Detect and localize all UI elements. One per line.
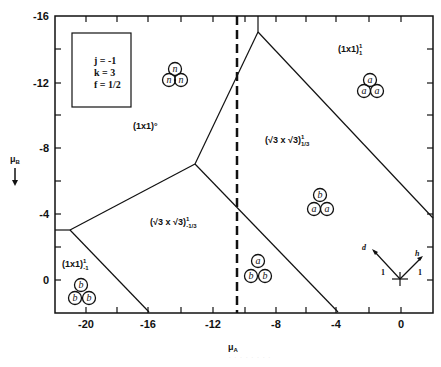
atom-label: a <box>362 85 367 96</box>
atom-label: b <box>87 292 92 303</box>
x-axis-title: μA <box>228 342 239 353</box>
atom-label: a <box>375 85 380 96</box>
y-axis-ticks-left <box>55 49 61 280</box>
region-label-sqrt3-1-third: (√3 x √3)11/3 <box>265 134 310 147</box>
y-tick-label: -8 <box>39 142 49 154</box>
param-f: f = 1/2 <box>94 79 121 90</box>
atom-label: b <box>263 270 268 281</box>
unit-label-right: 1 <box>418 268 422 277</box>
x-axis-ticks-bottom <box>86 307 401 313</box>
atom-label: a <box>256 255 261 266</box>
x-tick-label: 0 <box>398 318 404 330</box>
y-tick-label: 0 <box>43 274 49 286</box>
arrow-h-label: h <box>415 249 420 258</box>
atom-label: b <box>79 279 84 290</box>
y-tick-label: -12 <box>33 77 49 89</box>
atom-label: b <box>249 270 254 281</box>
region-label-1x1-1-neg1: (1x1)1-1 <box>62 258 89 271</box>
region-label-1x1-1-1: (1x1)11 <box>338 43 363 56</box>
arrow-d-label: d <box>362 243 367 252</box>
parameter-legend: j = -1 k = 3 f = 1/2 <box>72 33 131 107</box>
x-tick-label: -4 <box>331 318 342 330</box>
atom-label: n <box>167 74 172 85</box>
down-arrow-head-icon <box>12 180 18 186</box>
x-tick-label: -12 <box>205 318 221 330</box>
atom-label: n <box>179 74 184 85</box>
x-axis-ticks-top <box>86 16 401 22</box>
y-tick-label: -4 <box>39 208 50 220</box>
atom-label: b <box>73 292 78 303</box>
x-tick-label: -20 <box>78 318 94 330</box>
x-tick-label: -16 <box>140 318 156 330</box>
arrow-d-icon <box>374 251 400 279</box>
y-axis-ticks-right <box>427 49 433 280</box>
param-j: j = -1 <box>93 55 116 66</box>
region-label-sqrt3-neg-third: (√3 x √3)1-1/3 <box>150 216 197 229</box>
x-tick-label: -8 <box>271 318 281 330</box>
atom-label: a <box>312 203 317 214</box>
figure-caption-faded: · · · · · · · · <box>170 354 330 360</box>
phase-diagram: -16 -12 -8 -4 0 -20 -16 -12 -8 -4 0 μB μ… <box>0 0 441 367</box>
atom-label: a <box>368 74 373 85</box>
atom-label: b <box>318 189 323 200</box>
y-axis-title: μB <box>10 154 21 186</box>
region-label-1x1-zero: (1x1)° <box>133 121 158 131</box>
atom-label: n <box>173 63 178 74</box>
param-k: k = 3 <box>94 67 115 78</box>
atom-label: a <box>325 203 330 214</box>
svg-text:μB: μB <box>10 154 21 165</box>
y-tick-label: -16 <box>33 10 49 22</box>
unit-label-left: 1 <box>381 268 385 277</box>
